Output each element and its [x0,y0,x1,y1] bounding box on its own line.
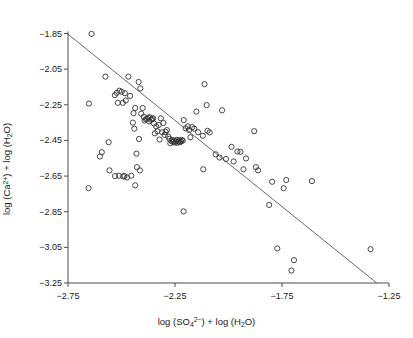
data-point [241,167,246,172]
data-point [115,100,120,105]
data-point [89,31,94,36]
x-axis-title: log (SO42−) + log (H2O) [0,316,413,328]
data-point [157,137,162,142]
data-point [132,126,137,131]
data-point [86,186,91,191]
data-point [133,105,138,110]
x-tick-label: −2.75 [48,291,88,301]
data-point [97,154,102,159]
y-tick-label: −2.65 [24,171,62,181]
data-point [107,168,112,173]
data-point [270,179,275,184]
data-point [181,209,186,214]
data-point [243,156,248,161]
data-point [252,129,257,134]
data-point [229,144,234,149]
data-point [137,168,142,173]
x-tick-label: −1.25 [369,291,409,301]
data-point [188,135,193,140]
data-point [134,151,139,156]
y-tick-label: −3.25 [24,278,62,288]
data-point [202,82,207,87]
data-point [126,74,131,79]
data-point [289,268,294,273]
data-point [291,258,296,263]
y-tick-label: −2.05 [24,64,62,74]
data-point [309,178,314,183]
data-point [284,177,289,182]
data-point [204,103,209,108]
data-point [122,91,127,96]
data-point [136,79,141,84]
x-tick-label: −1.75 [262,291,302,301]
data-point [368,247,373,252]
data-point [275,246,280,251]
y-tick-label: −2.45 [24,135,62,145]
data-point [281,186,286,191]
data-point [140,105,145,110]
data-point [219,108,224,113]
data-point [127,93,132,98]
data-point [133,183,138,188]
scatter-plot-figure: −1.85−2.05−2.25−2.45−2.65−2.85−3.05−3.25… [0,0,413,338]
regression-line [68,34,378,283]
y-axis-title: log (Ca2+) + log (H2O) [0,0,14,338]
x-tick-label: −2.25 [155,291,195,301]
data-point [231,159,236,164]
y-tick-label: −2.85 [24,207,62,217]
data-point [86,101,91,106]
data-point [181,118,186,123]
y-tick-label: −1.85 [24,29,62,39]
data-point [161,120,166,125]
data-point [130,120,135,125]
trendline [68,34,378,283]
y-tick-label: −3.05 [24,242,62,252]
data-point [201,167,206,172]
data-point [103,74,108,79]
data-point [131,111,136,116]
data-point [136,136,141,141]
data-point [196,130,201,135]
data-point [223,156,228,161]
data-point [200,133,205,138]
data-point [194,109,199,114]
data-point [138,86,143,91]
data-point [134,165,139,170]
data-points [86,31,373,273]
data-point [267,202,272,207]
y-tick-label: −2.25 [24,100,62,110]
data-point [106,140,111,145]
